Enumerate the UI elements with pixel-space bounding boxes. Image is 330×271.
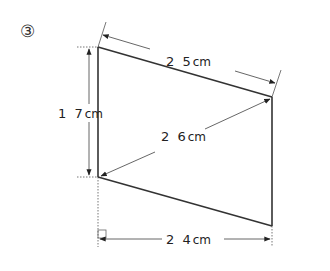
right-angle-marker xyxy=(98,230,106,238)
problem-number: ③ xyxy=(20,21,35,41)
quadrilateral-diagram: ③ 2 5cm 1 7cm 2 6cm xyxy=(0,0,330,271)
bottom-side xyxy=(98,177,272,226)
label-left-side: 1 7cm xyxy=(58,106,103,121)
label-top-side: 2 5cm xyxy=(166,54,211,69)
label-diagonal: 2 6cm xyxy=(161,129,206,144)
label-base: 2 4cm xyxy=(166,232,211,247)
